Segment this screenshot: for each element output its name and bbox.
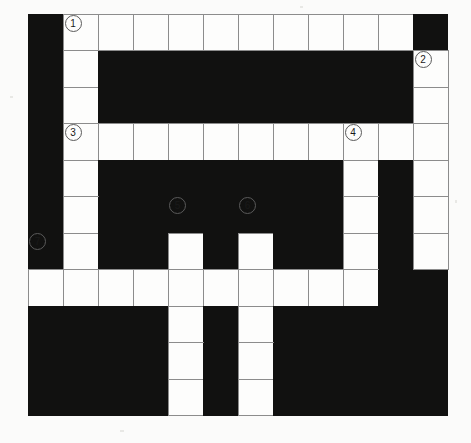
grid-cell-open[interactable] <box>238 379 274 417</box>
grid-cell-block <box>168 87 203 124</box>
grid-cell-block <box>413 379 448 416</box>
grid-cell-block <box>378 197 413 234</box>
grid-cell-open[interactable] <box>413 123 449 161</box>
clue-number-3: 3 <box>65 124 82 141</box>
grid-cell-open[interactable] <box>238 14 274 52</box>
grid-cell-block <box>98 343 133 380</box>
grid-cell-block <box>273 87 308 124</box>
grid-cell-open[interactable] <box>203 123 239 161</box>
grid-cell-block <box>203 51 238 88</box>
grid-cell-open[interactable] <box>308 269 344 307</box>
scan-speck <box>455 200 457 203</box>
grid-cell-block <box>98 87 133 124</box>
grid-cell-open[interactable] <box>63 50 99 88</box>
grid-cell-open[interactable] <box>238 269 274 307</box>
grid-cell-open[interactable] <box>98 123 134 161</box>
grid-cell-open[interactable] <box>273 123 309 161</box>
grid-cell-block <box>378 270 413 307</box>
grid-cell-open[interactable] <box>168 269 204 307</box>
grid-cell-block <box>133 306 168 343</box>
grid-cell-block <box>378 343 413 380</box>
grid-cell-open[interactable] <box>63 196 99 234</box>
grid-cell-block: 7 <box>28 233 63 270</box>
grid-cell-open[interactable] <box>273 14 309 52</box>
grid-cell-open[interactable] <box>343 14 379 52</box>
grid-cell-block <box>98 51 133 88</box>
grid-cell-open[interactable] <box>168 123 204 161</box>
grid-cell-block <box>28 160 63 197</box>
grid-cell-open[interactable] <box>343 233 379 271</box>
grid-cell-open[interactable]: 2 <box>413 50 449 88</box>
grid-cell-open[interactable] <box>413 233 449 271</box>
grid-cell-open[interactable] <box>238 123 274 161</box>
grid-cell-open[interactable] <box>308 123 344 161</box>
grid-cell-open[interactable] <box>133 14 169 52</box>
grid-cell-open[interactable] <box>63 269 99 307</box>
grid-cell-open[interactable]: 3 <box>63 123 99 161</box>
grid-cell-block <box>133 160 168 197</box>
grid-cell-open[interactable] <box>343 160 379 198</box>
grid-cell-open[interactable] <box>413 196 449 234</box>
grid-cell-open[interactable] <box>273 269 309 307</box>
grid-cell-block <box>273 379 308 416</box>
grid-cell-open[interactable] <box>413 160 449 198</box>
grid-cell-block <box>63 379 98 416</box>
grid-cell-block <box>378 87 413 124</box>
grid-cell-block <box>28 306 63 343</box>
grid-cell-open[interactable] <box>168 14 204 52</box>
grid-cell-block <box>238 160 273 197</box>
grid-cell-open[interactable] <box>308 14 344 52</box>
grid-cell-block <box>98 233 133 270</box>
grid-cell-open[interactable] <box>168 306 204 344</box>
clue-number-1: 1 <box>65 15 82 32</box>
grid-cell-open[interactable] <box>203 14 239 52</box>
grid-cell-open[interactable] <box>63 87 99 125</box>
grid-cell-block <box>28 14 63 51</box>
grid-cell-open[interactable] <box>28 269 64 307</box>
grid-cell-block <box>168 160 203 197</box>
scan-speck <box>300 6 303 8</box>
grid-cell-block <box>133 379 168 416</box>
grid-cell-open[interactable] <box>238 342 274 380</box>
grid-cell-block <box>273 233 308 270</box>
grid-cell-open[interactable] <box>63 160 99 198</box>
crossword-puzzle: 1234567 <box>0 0 471 443</box>
grid-cell-block <box>28 87 63 124</box>
grid-cell-block <box>133 233 168 270</box>
grid-cell-open[interactable]: 4 <box>343 123 379 161</box>
grid-cell-open[interactable] <box>133 269 169 307</box>
grid-cell-open[interactable] <box>133 123 169 161</box>
crossword-grid[interactable]: 1234567 <box>28 14 448 416</box>
clue-number-6: 6 <box>239 197 256 214</box>
grid-cell-open[interactable] <box>343 269 379 307</box>
grid-cell-open[interactable] <box>203 269 239 307</box>
grid-cell-open[interactable] <box>378 14 414 52</box>
grid-cell-block <box>308 306 343 343</box>
grid-cell-open[interactable] <box>98 14 134 52</box>
grid-cell-block <box>308 379 343 416</box>
grid-cell-open[interactable] <box>378 123 414 161</box>
grid-cell-block <box>343 87 378 124</box>
grid-cell-block <box>63 343 98 380</box>
grid-cell-open[interactable]: 1 <box>63 14 99 52</box>
grid-cell-block <box>378 306 413 343</box>
grid-cell-block <box>378 160 413 197</box>
grid-cell-open[interactable] <box>413 87 449 125</box>
grid-cell-block <box>28 197 63 234</box>
grid-cell-block <box>203 197 238 234</box>
grid-cell-block <box>98 306 133 343</box>
grid-cell-open[interactable] <box>98 269 134 307</box>
grid-cell-open[interactable] <box>343 196 379 234</box>
scan-speck <box>10 96 13 98</box>
grid-cell-open[interactable] <box>168 233 204 271</box>
grid-cell-open[interactable] <box>168 342 204 380</box>
grid-cell-block <box>203 233 238 270</box>
grid-cell-block <box>203 160 238 197</box>
grid-cell-open[interactable] <box>238 233 274 271</box>
grid-cell-open[interactable] <box>168 379 204 417</box>
grid-cell-block <box>63 306 98 343</box>
grid-cell-open[interactable] <box>238 306 274 344</box>
grid-cell-block <box>168 51 203 88</box>
grid-cell-open[interactable] <box>63 233 99 271</box>
grid-cell-block <box>28 51 63 88</box>
